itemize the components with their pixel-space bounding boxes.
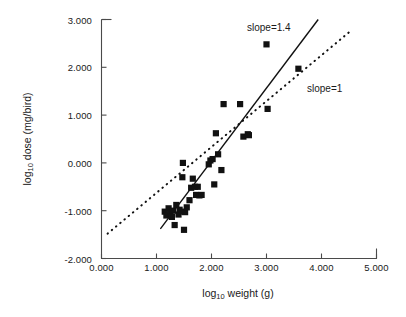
x-tick-label: 4.000: [309, 262, 333, 273]
y-tick-label: 0.000: [46, 157, 92, 168]
y-tick-label: -1.000: [46, 205, 92, 216]
y-tick-label: 1.000: [46, 110, 92, 121]
data-point-marker: [295, 66, 301, 72]
annotation-slope-1-4: slope=1.4: [247, 22, 291, 33]
y-tick-label: 2.000: [46, 62, 92, 73]
trend-lines: [108, 20, 353, 234]
x-tick-label: 5.000: [364, 262, 388, 273]
data-point-marker: [184, 204, 190, 210]
x-axis-title: log10 weight (g): [202, 287, 273, 299]
data-point-marker: [263, 41, 269, 47]
annotation-slope-1: slope=1: [307, 83, 342, 94]
data-point-marker: [246, 132, 252, 138]
data-point-marker: [195, 184, 201, 190]
data-point-marker: [199, 192, 205, 198]
slope-1-line: [108, 30, 353, 234]
data-point-marker: [213, 130, 219, 136]
y-axis-title-subscript: 10: [26, 163, 35, 171]
x-axis-title-suffix: weight (g): [225, 287, 274, 299]
y-tick-label: -2.000: [46, 253, 92, 264]
data-point-marker: [190, 176, 196, 182]
data-point-marker: [237, 101, 243, 107]
data-point-marker: [215, 151, 221, 157]
scatter-plot-figure: 0.0001.0002.0003.0004.0005.000 -2.000-1.…: [0, 0, 406, 317]
x-axis-title-subscript: 10: [216, 292, 224, 301]
x-tick-label: 2.000: [199, 262, 223, 273]
data-point-marker: [181, 227, 187, 233]
x-tick-label: 1.000: [144, 262, 168, 273]
y-axis-title-prefix: log: [21, 171, 33, 185]
x-tick-label: 0.000: [89, 262, 113, 273]
data-point-marker: [221, 101, 227, 107]
x-tick-label: 3.000: [254, 262, 278, 273]
data-point-marker: [265, 106, 271, 112]
data-point-marker: [170, 208, 176, 214]
y-axis-title-suffix: dose (mg/bird): [21, 93, 33, 164]
data-point-marker: [218, 167, 224, 173]
data-point-marker: [186, 197, 192, 203]
x-axis-title-prefix: log: [202, 287, 216, 299]
axis-ticks: [102, 20, 377, 259]
y-tick-label: 3.000: [46, 14, 92, 25]
axis-frame: [102, 20, 377, 259]
data-point-marker: [210, 156, 216, 162]
data-point-marker: [180, 160, 186, 166]
data-point-marker: [172, 222, 178, 228]
data-point-marker: [179, 174, 185, 180]
data-point-marker: [169, 214, 175, 220]
data-point-marker: [211, 181, 217, 187]
y-axis-title: log10 dose (mg/bird): [21, 93, 33, 186]
